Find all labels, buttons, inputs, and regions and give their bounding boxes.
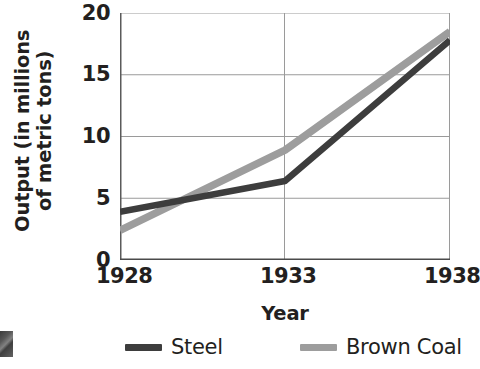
y-axis-title: Output (in millions of metric tons) — [0, 0, 68, 262]
legend-swatch-steel — [125, 344, 162, 351]
legend-item-brown-coal: Brown Coal — [300, 337, 462, 358]
y-tick-label-5: 5 — [66, 188, 110, 209]
page-edge-artifact — [0, 331, 13, 357]
x-tick-label-1933: 1933 — [260, 266, 316, 287]
legend-label-brown-coal: Brown Coal — [346, 337, 462, 358]
y-tick-label-20: 20 — [66, 3, 110, 24]
x-axis-title: Year — [120, 302, 450, 325]
y-tick-label-15: 15 — [66, 64, 110, 85]
legend-swatch-brown-coal — [300, 344, 337, 351]
y-axis-tick-labels: 20 15 10 5 0 — [66, 0, 110, 369]
y-axis-title-line-1: Output (in millions — [12, 30, 34, 232]
x-axis-tick-labels: 1928 1933 1938 — [0, 266, 474, 298]
y-axis-title-line-2: of metric tons) — [34, 30, 56, 232]
legend-item-steel: Steel — [125, 337, 223, 358]
x-tick-label-1938: 1938 — [424, 266, 480, 287]
legend-label-steel: Steel — [171, 337, 223, 358]
chart-legend: Steel Brown Coal — [0, 337, 474, 367]
x-tick-label-1928: 1928 — [96, 266, 152, 287]
plot-area — [120, 13, 450, 260]
y-tick-label-10: 10 — [66, 126, 110, 147]
